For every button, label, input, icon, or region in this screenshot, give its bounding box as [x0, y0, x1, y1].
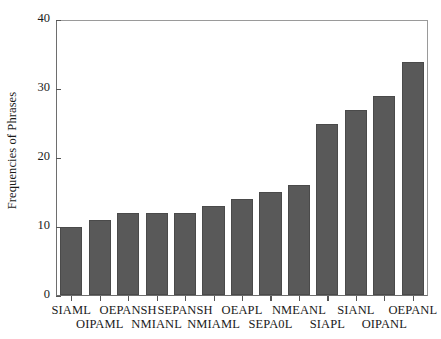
x-tick-label: OEPANSH	[100, 303, 157, 318]
bar	[402, 62, 424, 295]
bar	[231, 199, 253, 295]
x-tick-label: OIPANL	[362, 317, 407, 332]
x-tick-label: OEAPL	[222, 303, 263, 318]
y-tick-mark	[56, 296, 61, 297]
x-tick-label: NMIANL	[131, 317, 182, 332]
x-tick-mark	[185, 296, 186, 301]
x-tick-mark	[128, 296, 129, 301]
x-tick-mark	[270, 296, 271, 301]
x-tick-mark	[100, 296, 101, 301]
x-tick-mark	[214, 296, 215, 301]
bar	[373, 96, 395, 295]
bar	[117, 213, 139, 295]
bar	[259, 192, 281, 295]
x-tick-label: SIAPL	[310, 317, 345, 332]
x-tick-label: OEPANL	[388, 303, 437, 318]
x-tick-mark	[242, 296, 243, 301]
x-tick-label: SIAML	[52, 303, 91, 318]
x-tick-mark	[384, 296, 385, 301]
x-tick-mark	[356, 296, 357, 301]
x-tick-label: SEPA0L	[249, 317, 293, 332]
y-tick-label: 20	[24, 149, 50, 164]
y-tick-label: 40	[24, 11, 50, 26]
x-tick-label: SIANL	[337, 303, 374, 318]
bar	[288, 185, 310, 295]
x-tick-mark	[71, 296, 72, 301]
y-axis-title: Frequencies of Phrases	[2, 0, 24, 300]
x-tick-label: SEPANSH	[158, 303, 213, 318]
y-axis-title-text: Frequencies of Phrases	[6, 91, 21, 208]
bar	[89, 220, 111, 295]
x-tick-mark	[299, 296, 300, 301]
bar	[146, 213, 168, 295]
x-tick-label: OIPAML	[76, 317, 123, 332]
bar	[202, 206, 224, 295]
bar	[60, 227, 82, 296]
y-tick-label: 0	[24, 287, 50, 302]
bar	[174, 213, 196, 295]
y-tick-label: 10	[24, 218, 50, 233]
bar	[345, 110, 367, 295]
x-tick-mark	[157, 296, 158, 301]
bar	[316, 124, 338, 295]
x-tick-mark	[327, 296, 328, 301]
x-tick-mark	[413, 296, 414, 301]
x-tick-label: NMEANL	[272, 303, 326, 318]
bars-layer	[57, 21, 427, 295]
x-tick-label: NMIAML	[187, 317, 240, 332]
y-tick-label: 30	[24, 80, 50, 95]
bar-chart-figure: Frequencies of Phrases 010203040 SIAMLOI…	[0, 0, 441, 339]
